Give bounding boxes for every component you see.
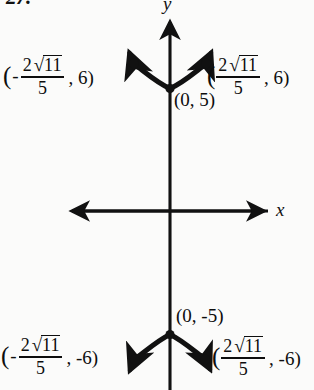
x-axis-label: x <box>276 200 284 219</box>
radical-expression: √ 11 <box>34 56 63 75</box>
open-paren: ( <box>3 63 11 88</box>
fraction-numerator: 2 √ 11 <box>216 56 260 76</box>
radicand: 11 <box>43 55 62 74</box>
label-vertex-upper: (0, 5) <box>174 90 215 110</box>
label-tail: , 6) <box>264 68 289 88</box>
open-paren: ( <box>212 344 220 369</box>
point-dot-lower-left <box>130 355 140 365</box>
radical-expression: √ 11 <box>32 336 61 355</box>
fraction-denominator: 5 <box>239 359 248 378</box>
negative-sign: - <box>10 346 16 366</box>
numerator-coefficient: 2 <box>223 337 232 355</box>
open-paren: ( <box>1 343 9 368</box>
fraction-denominator: 5 <box>38 78 47 97</box>
label-lower-left-point: ( - 2 √ 11 5 , -6) <box>1 336 98 377</box>
radicand: 11 <box>244 336 263 355</box>
fraction: 2 √ 11 5 <box>21 56 65 97</box>
figure-canvas: 27. <box>0 0 314 390</box>
fraction-numerator: 2 √ 11 <box>221 337 265 357</box>
label-vertex-lower: (0, -5) <box>176 306 223 326</box>
numerator-coefficient: 2 <box>23 56 32 74</box>
label-lower-right-point: ( 2 √ 11 5 , -6) <box>212 337 301 378</box>
label-upper-right-point: ( 2 √ 11 5 , 6) <box>207 56 289 97</box>
point-dot-upper-left <box>129 59 139 69</box>
radicand: 11 <box>41 335 60 354</box>
label-tail: , 6) <box>68 68 93 88</box>
fraction-numerator: 2 √ 11 <box>21 56 65 76</box>
label-upper-left-point: ( - 2 √ 11 5 , 6) <box>3 56 94 97</box>
fraction: 2 √ 11 5 <box>216 56 260 97</box>
fraction-denominator: 5 <box>234 78 243 97</box>
label-tail: , -6) <box>269 349 301 369</box>
fraction-denominator: 5 <box>36 358 45 377</box>
radical-expression: √ 11 <box>229 56 258 75</box>
point-dot-lower-right <box>200 355 210 365</box>
open-paren: ( <box>207 63 215 88</box>
fraction: 2 √ 11 5 <box>19 336 63 377</box>
radicand: 11 <box>239 55 258 74</box>
label-tail: , -6) <box>66 348 98 368</box>
numerator-coefficient: 2 <box>218 56 227 74</box>
point-dot-vertex-lower <box>165 330 174 339</box>
y-axis-label: y <box>163 0 171 13</box>
fraction-numerator: 2 √ 11 <box>19 336 63 356</box>
fraction: 2 √ 11 5 <box>221 337 265 378</box>
negative-sign: - <box>12 66 18 86</box>
numerator-coefficient: 2 <box>21 336 30 354</box>
radical-expression: √ 11 <box>234 337 263 356</box>
